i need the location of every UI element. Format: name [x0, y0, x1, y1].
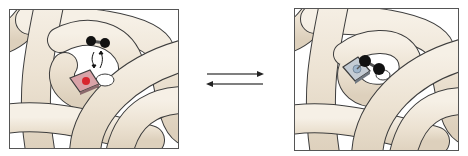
unbound-state-panel: Unbound state: O2 approaching heme (iron…	[9, 9, 179, 149]
binding-arrows-icon	[92, 51, 103, 68]
reverse-arrow-icon	[206, 81, 263, 87]
equilibrium-arrows: Reversible equilibrium	[205, 68, 265, 92]
bound-state-panel: Bound state: O2 bound to heme (iron show…	[294, 8, 459, 151]
iron-atom-icon	[82, 77, 90, 85]
forward-arrow-icon	[207, 71, 264, 77]
protein-chain-illustration	[10, 10, 178, 148]
protein-chain-illustration	[295, 9, 458, 150]
figure-description: Protein chain with heme pocket reversibl…	[0, 0, 1, 1]
